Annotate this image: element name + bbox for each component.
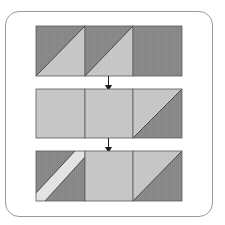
row2-square2-solid-light	[85, 89, 133, 138]
row2-square1-solid-light	[36, 89, 85, 138]
row1-square2-hst	[85, 26, 133, 76]
row-1	[36, 26, 182, 76]
row1-square1-hst	[36, 26, 85, 76]
row-3	[36, 151, 182, 201]
quilt-diagram	[0, 0, 225, 225]
row-2	[36, 89, 182, 138]
row3-square2-solid-light	[85, 151, 133, 201]
row3-square1-diagonal-band	[36, 151, 85, 201]
row3-square3-hst	[133, 151, 182, 201]
row2-square3-hst	[133, 89, 182, 138]
row1-square3-solid-dark	[133, 26, 182, 76]
